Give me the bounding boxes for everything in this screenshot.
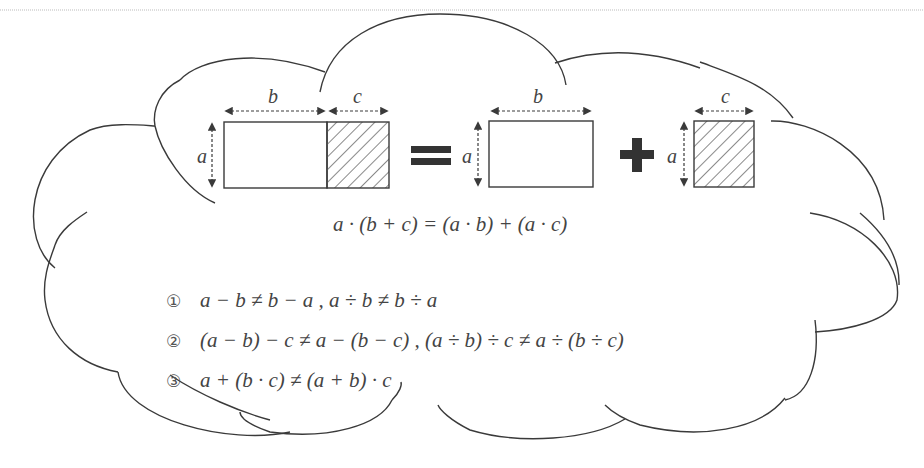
distributive-formula: a · (b + c) = (a · b) + (a · c) [333,214,567,235]
left-rect-b [224,122,327,188]
label-right-a: a [667,146,677,166]
statement-2-marker: ② [166,333,200,350]
statement-3: ③a + (b · c) ≠ (a + b) · c [166,370,391,391]
statement-1-marker: ① [166,293,200,310]
label-middle-b: b [533,86,543,106]
label-left-b: b [268,86,278,106]
right-square-group [684,111,754,187]
label-middle-a: a [462,146,472,166]
statement-1: ①a − b ≠ b − a , a ÷ b ≠ b ÷ a [166,290,437,311]
right-rect-c-hatched [694,121,754,187]
left-rectangle-group [212,111,389,188]
middle-rectangle-group [478,111,593,187]
label-right-c: c [721,86,730,106]
plus-operator-icon [620,138,654,172]
middle-rect-b [489,121,593,187]
label-left-c: c [353,86,362,106]
label-left-a: a [197,146,207,166]
statement-1-text: a − b ≠ b − a , a ÷ b ≠ b ÷ a [200,288,437,312]
statement-2: ②(a − b) − c ≠ a − (b − c) , (a ÷ b) ÷ c… [166,330,624,351]
left-rect-c-hatched [327,122,389,188]
equals-operator-icon [411,146,451,165]
statement-3-marker: ③ [166,373,200,390]
distributive-law-diagram: b c a b a c a a · (b + c) = (a · b) + (a… [0,0,924,468]
statement-2-text: (a − b) − c ≠ a − (b − c) , (a ÷ b) ÷ c … [200,328,624,352]
statement-3-text: a + (b · c) ≠ (a + b) · c [200,368,391,392]
